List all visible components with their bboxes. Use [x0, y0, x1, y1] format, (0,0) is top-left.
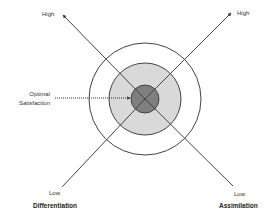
bottom-right-low-label: Low: [234, 191, 245, 198]
assimilation-axis-low-segment: [145, 99, 233, 186]
top-left-high-label: High: [42, 11, 54, 18]
optimal-label: Optimal: [12, 91, 50, 98]
differentiation-axis-high-segment: [63, 15, 145, 99]
bottom-left-low-label: Low: [49, 190, 60, 197]
assimilation-label: Assimilation: [219, 202, 258, 209]
satisfaction-label: Satisfaction: [6, 100, 50, 107]
differentiation-label: Differentiation: [33, 202, 77, 209]
assimilation-axis-high-segment: [145, 13, 231, 99]
differentiation-axis-low-segment: [62, 99, 145, 187]
top-right-high-label: High: [237, 10, 249, 17]
satisfaction-target-diagram: [0, 0, 274, 220]
